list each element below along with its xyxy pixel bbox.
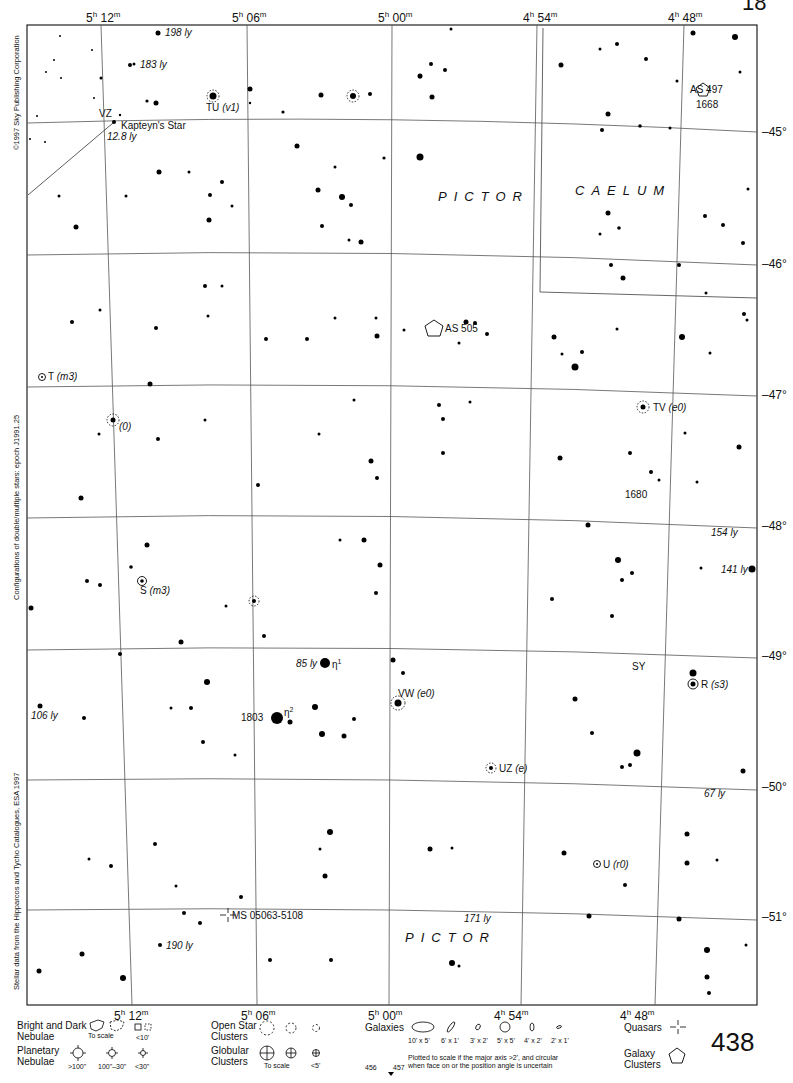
label-kapteyn-distance: 12.8 ly <box>107 131 136 142</box>
ra-label-top-5h12m: 5h 12m <box>86 10 121 25</box>
legend-planetary-title: Planetary Nebulae <box>17 1045 59 1067</box>
legend-planetary-size-small: <30" <box>135 1063 149 1070</box>
legend-globular-title: Globular Clusters <box>211 1045 249 1067</box>
ra-label-top-4h48m: 4h 48m <box>668 10 703 25</box>
label-s: S (m3) <box>140 585 170 596</box>
constellation-caelum: CAELUM <box>575 183 671 198</box>
legend-nebulae-title: Bright and Dark Nebulae <box>17 1020 86 1042</box>
label-190ly: 190 ly <box>166 940 193 951</box>
legend-galaxy-size-2: 6' x 1' <box>441 1037 459 1044</box>
legend-quasars-title: Quasars <box>624 1022 662 1033</box>
legend-galaxy-size-3: 3' x 2' <box>470 1037 488 1044</box>
constellation-pictor-upper: PICTOR <box>438 189 529 204</box>
label-kapteyns-star: Kapteyn's Star <box>121 120 186 131</box>
dec-label-minus45: –45° <box>762 125 787 139</box>
label-uz: UZ (e) <box>499 763 527 774</box>
legend-open-cluster-title: Open Star Clusters <box>211 1020 257 1042</box>
label-t: T (m3) <box>48 371 77 382</box>
copyright-text: ©1997 Sky Publishing Corporation <box>12 35 21 150</box>
data-source-text: Stellar data from the Hipparcos and Tych… <box>12 773 21 991</box>
proper-motion-line <box>28 123 113 195</box>
legend-nebulae-to-scale: To scale <box>88 1032 114 1039</box>
dec-label-minus50: –50° <box>762 780 787 794</box>
legend-galaxy-size-1: 10' x 5' <box>408 1037 430 1044</box>
ra-label-bottom-4h54m: 4h 54m <box>494 1008 529 1023</box>
label-as505: AS 505 <box>445 323 478 334</box>
legend-galaxy-size-5: 4' x 2' <box>524 1037 542 1044</box>
legend-galaxy-clusters-title: Galaxy Clusters <box>624 1048 661 1070</box>
legend-galaxy-size-6: 2' x 1' <box>551 1037 569 1044</box>
dec-label-minus48: –48° <box>762 519 787 533</box>
chart-frame <box>27 25 757 1005</box>
epoch-note: Configurations of double/multiple stars:… <box>12 415 21 600</box>
star-chart <box>0 0 793 1083</box>
dec-label-minus49: –49° <box>762 649 787 663</box>
label-eta2: η2 <box>284 706 293 718</box>
label-as497: AS 497 <box>690 84 723 95</box>
legend-globular-to-scale: To scale <box>264 1062 290 1069</box>
page-link-right[interactable]: 457 <box>393 1064 405 1071</box>
label-tu: TU (v1) <box>206 102 239 113</box>
label-ngc1668: 1668 <box>696 99 718 110</box>
page-number: 438 <box>711 1027 754 1058</box>
legend-planetary-size-mid: 100"–30" <box>98 1063 126 1070</box>
ra-label-top-5h00m: 5h 00m <box>378 10 413 25</box>
ra-label-bottom-5h00m: 5h 00m <box>368 1008 403 1023</box>
dec-grid <box>27 119 757 920</box>
legend-galaxy-size-4: 5' x 5' <box>497 1037 515 1044</box>
legend-globular-small: <5' <box>311 1062 320 1069</box>
label-vw: VW (e0) <box>398 688 435 699</box>
ra-label-top-5h06m: 5h 06m <box>232 10 267 25</box>
label-85ly: 85 ly <box>296 658 317 669</box>
stars <box>29 28 756 996</box>
ra-label-bottom-4h48m: 4h 48m <box>620 1008 655 1023</box>
corner-page-fragment: 18 <box>742 0 766 16</box>
legend-planetary-size-large: >100" <box>68 1063 86 1070</box>
label-vz: VZ <box>99 108 112 119</box>
label-67ly: 67 ly <box>704 788 725 799</box>
label-sy: SY <box>632 661 645 672</box>
label-quasar-ms05063: MS 05063-5108 <box>232 910 303 921</box>
ra-label-top-4h54m: 4h 54m <box>523 10 558 25</box>
label-zero: (0) <box>119 421 131 432</box>
label-154ly: 154 ly <box>711 527 738 538</box>
page-link-left[interactable]: 456 <box>365 1064 377 1071</box>
label-141ly: 141 ly <box>721 564 748 575</box>
label-198ly: 198 ly <box>165 27 192 38</box>
legend-nebulae-small: <10' <box>136 1034 149 1041</box>
legend-galaxies-title: Galaxies <box>365 1022 404 1033</box>
constellation-pictor-lower: PICTOR <box>405 930 496 945</box>
dec-label-minus46: –46° <box>762 257 787 271</box>
ra-label-bottom-5h12m: 5h 12m <box>114 1008 149 1023</box>
label-ngc1803: 1803 <box>241 712 263 723</box>
label-171ly: 171 ly <box>464 913 491 924</box>
dec-label-minus51: –51° <box>762 910 787 924</box>
label-eta1: η1 <box>332 658 341 670</box>
label-106ly: 106 ly <box>31 710 58 721</box>
galaxy-cluster-as505-icon <box>425 320 443 336</box>
label-r: R (s3) <box>701 679 728 690</box>
legend-galaxy-note: Plotted to scale if the major axis >2', … <box>408 1054 558 1070</box>
variable-star-rings <box>107 90 649 773</box>
label-ngc1680: 1680 <box>625 489 647 500</box>
label-u: U (r0) <box>603 859 629 870</box>
ring-variables <box>39 374 699 868</box>
label-tv: TV (e0) <box>653 402 686 413</box>
label-183ly: 183 ly <box>140 59 167 70</box>
dec-label-minus47: –47° <box>762 388 787 402</box>
